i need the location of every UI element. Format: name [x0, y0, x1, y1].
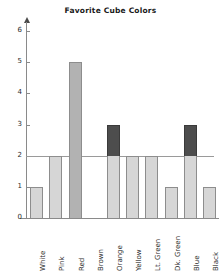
bar-slot — [107, 24, 120, 218]
bar[interactable] — [145, 156, 158, 218]
bar-slot — [145, 24, 158, 218]
y-tick-label-text: 5 — [6, 58, 22, 65]
x-tick-label-pink: Pink — [59, 256, 66, 271]
y-tick-label-text: 4 — [6, 89, 22, 96]
chart-title: Favorite Cube Colors — [0, 6, 221, 15]
y-tick-label-2: 2 — [0, 152, 22, 159]
bar-slot — [126, 24, 139, 218]
x-tick-label-yellow: Yellow — [136, 249, 143, 271]
y-tick-label-0: 0 — [0, 214, 22, 221]
bar[interactable] — [126, 156, 139, 218]
y-tick-label-6: 6 — [0, 27, 22, 34]
y-tick-label-text: 3 — [6, 121, 22, 128]
bar-slot — [49, 24, 62, 218]
plot-area — [27, 24, 219, 218]
x-tick-label-dk-green: Dk. Green — [175, 236, 182, 271]
y-tick-label-5: 5 — [0, 58, 22, 65]
bar[interactable] — [203, 187, 216, 218]
x-tick-label-red: Red — [79, 258, 86, 271]
x-tick-label-brown: Brown — [98, 249, 105, 271]
bar-slot — [184, 24, 197, 218]
x-tick-label-white: White — [40, 251, 47, 271]
y-tick-label-text: 2 — [6, 152, 22, 159]
y-tick-label-text: 6 — [6, 27, 22, 34]
bar[interactable] — [30, 187, 43, 218]
bar-chart: Favorite Cube Colors 0123456 WhitePinkRe… — [0, 0, 221, 274]
bar-segment-above-reference[interactable] — [184, 125, 197, 156]
y-tick-label-1: 1 — [0, 183, 22, 190]
bar-slot — [88, 24, 101, 218]
bar-slot — [203, 24, 216, 218]
bar-segment-above-reference[interactable] — [107, 125, 120, 156]
y-tick-label-3: 3 — [0, 121, 22, 128]
x-tick-label-blue: Blue — [194, 256, 201, 272]
y-tick-label-4: 4 — [0, 89, 22, 96]
x-tick-label-lt-green: Lt. Green — [155, 239, 162, 271]
bar-slot — [69, 24, 82, 218]
bar[interactable] — [69, 62, 82, 218]
x-axis-line — [20, 218, 219, 219]
bar-slot — [30, 24, 43, 218]
bar[interactable] — [165, 187, 178, 218]
y-tick-label-text: 1 — [6, 183, 22, 190]
y-tick-0 — [27, 218, 30, 219]
y-tick-label-text: 0 — [6, 214, 22, 221]
bar-slot — [165, 24, 178, 218]
x-tick-label-black: Black — [213, 252, 220, 271]
bar[interactable] — [49, 156, 62, 218]
x-tick-label-orange: Orange — [117, 245, 124, 271]
